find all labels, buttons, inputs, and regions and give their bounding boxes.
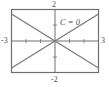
chart-figure: 2 -2 -3 3 C = 0	[0, 0, 109, 87]
y-axis-tick-label-top: 2	[52, 1, 56, 9]
y-axis-tick-label-bottom: -2	[51, 76, 58, 84]
plot-svg	[0, 0, 109, 87]
x-axis-tick-label-left: -3	[1, 37, 8, 45]
curve-equation-label: C = 0	[60, 18, 80, 27]
x-axis-tick-label-right: 3	[101, 37, 105, 45]
